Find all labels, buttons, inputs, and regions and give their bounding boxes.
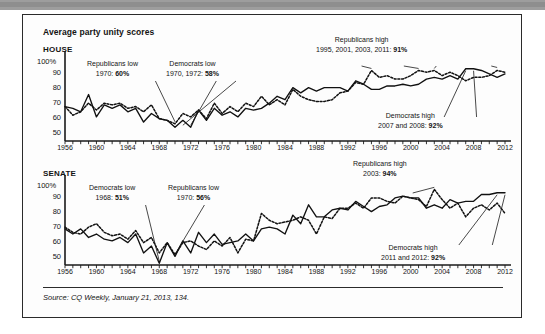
senate-annot-republicans-low-line1: Republicans low — [168, 183, 219, 193]
house-ytick-50: 50 — [37, 128, 61, 137]
house-xtick-label-1984: 1984 — [272, 144, 298, 151]
house-ytick-70: 70 — [37, 98, 61, 107]
house-xtick-label-2008: 2008 — [461, 144, 487, 151]
house-annot-democrats-high-line2: 2007 and 2008: 92% — [378, 121, 443, 131]
house-annot-republicans-low-line1: Republicans low — [87, 59, 138, 69]
senate-annot-democrats-low: Democrats low 1968: 51% — [89, 183, 135, 202]
house-annot-democrats-high-line1: Democrats high — [378, 111, 443, 121]
senate-xtick-label-1988: 1988 — [303, 268, 329, 275]
page-top-band — [0, 0, 545, 10]
page-top-band-inner — [0, 2, 545, 7]
senate-ytick-70: 70 — [37, 222, 61, 231]
senate-xtick-label-1980: 1980 — [241, 268, 267, 275]
house-xtick-label-2000: 2000 — [398, 144, 424, 151]
house-annot-republicans-high: Republicans high 1995, 2001, 2003, 2011:… — [316, 35, 407, 54]
senate-xtick-label-1976: 1976 — [209, 268, 235, 275]
figure-container: Average party unity scores HOUSE 100% 90… — [22, 14, 522, 318]
senate-annot-republicans-high: Republicans high 2003: 94% — [353, 159, 407, 178]
senate-ytick-90: 90 — [37, 192, 61, 201]
senate-xtick-label-1964: 1964 — [115, 268, 141, 275]
senate-annot-republicans-high-line1: Republicans high — [353, 159, 407, 169]
house-xtick-label-1964: 1964 — [115, 144, 141, 151]
senate-annot-republicans-low: Republicans low 1970: 56% — [168, 183, 219, 202]
senate-xtick-label-2012: 2012 — [492, 268, 518, 275]
house-annot-republicans-high-line1: Republicans high — [316, 35, 407, 45]
house-xtick-label-1996: 1996 — [366, 144, 392, 151]
senate-ytick-50: 50 — [37, 252, 61, 261]
house-axis-top-label: 100% — [37, 57, 56, 66]
senate-annot-democrats-high-line2: 2011 and 2012: 92% — [381, 253, 445, 263]
house-annot-republicans-low: Republicans low 1970: 60% — [87, 59, 138, 78]
senate-xtick-label-1984: 1984 — [272, 268, 298, 275]
senate-annot-democrats-low-line1: Democrats low — [89, 183, 135, 193]
house-xtick-label-1956: 1956 — [52, 144, 78, 151]
source-note: Source: CQ Weekly, January 21, 2013, 134… — [43, 293, 189, 302]
house-xtick-label-1972: 1972 — [178, 144, 204, 151]
house-xtick-label-2012: 2012 — [492, 144, 518, 151]
source-divider — [43, 287, 503, 288]
house-xtick-label-1992: 1992 — [335, 144, 361, 151]
senate-xtick-label-2008: 2008 — [461, 268, 487, 275]
senate-annot-democrats-high-line1: Democrats high — [381, 243, 445, 253]
senate-annot-democrats-high: Democrats high 2011 and 2012: 92% — [381, 243, 445, 262]
house-xtick-label-1976: 1976 — [209, 144, 235, 151]
figure-title: Average party unity scores — [43, 27, 154, 37]
house-annot-democrats-low-line2: 1970, 1972: 58% — [166, 69, 219, 79]
house-xtick-label-1988: 1988 — [303, 144, 329, 151]
house-annot-republicans-low-line2: 1970: 60% — [87, 69, 138, 79]
senate-ytick-60: 60 — [37, 237, 61, 246]
senate-xtick-label-1992: 1992 — [335, 268, 361, 275]
house-xtick-label-1960: 1960 — [83, 144, 109, 151]
house-annot-republicans-high-line2: 1995, 2001, 2003, 2011: 91% — [316, 45, 407, 55]
senate-axis-top-label: 100% — [37, 181, 56, 190]
senate-xtick-label-1956: 1956 — [52, 268, 78, 275]
house-ytick-60: 60 — [37, 113, 61, 122]
house-annot-democrats-low: Democrats low 1970, 1972: 58% — [166, 59, 219, 78]
house-annot-democrats-low-line1: Democrats low — [166, 59, 219, 69]
senate-annot-republicans-high-line2: 2003: 94% — [353, 169, 407, 179]
senate-annot-republicans-low-line2: 1970: 56% — [168, 193, 219, 203]
house-xtick-label-2004: 2004 — [429, 144, 455, 151]
house-annot-democrats-high: Democrats high 2007 and 2008: 92% — [378, 111, 443, 130]
senate-annot-democrats-low-line2: 1968: 51% — [89, 193, 135, 203]
house-ytick-90: 90 — [37, 68, 61, 77]
senate-xtick-label-2004: 2004 — [429, 268, 455, 275]
house-ytick-80: 80 — [37, 83, 61, 92]
senate-xtick-label-2000: 2000 — [398, 268, 424, 275]
senate-xtick-label-1972: 1972 — [178, 268, 204, 275]
house-xtick-label-1980: 1980 — [241, 144, 267, 151]
senate-xtick-label-1968: 1968 — [146, 268, 172, 275]
senate-xtick-label-1960: 1960 — [83, 268, 109, 275]
senate-ytick-80: 80 — [37, 207, 61, 216]
senate-xtick-label-1996: 1996 — [366, 268, 392, 275]
house-xtick-label-1968: 1968 — [146, 144, 172, 151]
